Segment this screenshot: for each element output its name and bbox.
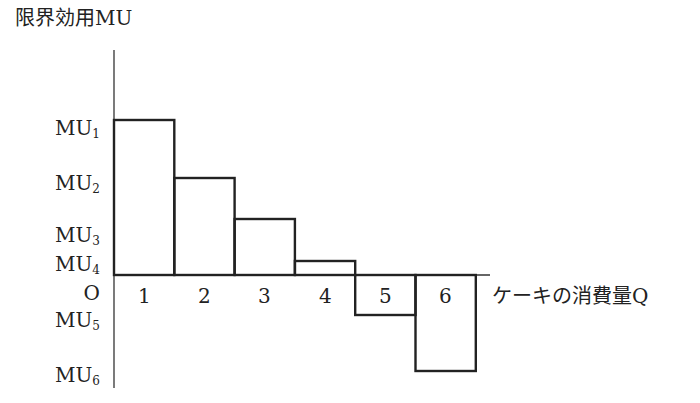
y-tick-mu3: MU3	[55, 225, 100, 247]
y-tick-mu5: MU5	[55, 310, 100, 332]
x-axis-title: ケーキの消費量Q	[492, 286, 648, 306]
bar-4	[295, 261, 355, 275]
y-tick-mu1: MU1	[55, 118, 100, 140]
y-axis-title: 限界効用MU	[15, 8, 132, 28]
x-tick-6: 6	[439, 286, 452, 306]
bar-2	[174, 178, 234, 275]
y-tick-mu4: MU4	[55, 254, 100, 276]
y-tick-mu2: MU2	[55, 173, 100, 195]
x-tick-5: 5	[379, 286, 392, 306]
bar-1	[114, 120, 174, 275]
x-tick-2: 2	[198, 286, 211, 306]
y-tick-mu6: MU6	[55, 365, 100, 387]
chart-canvas	[0, 0, 700, 403]
origin-label: O	[84, 283, 100, 303]
bar-3	[235, 219, 295, 275]
x-tick-4: 4	[319, 286, 332, 306]
x-tick-1: 1	[138, 286, 151, 306]
x-tick-3: 3	[258, 286, 271, 306]
bar-group	[114, 120, 476, 371]
